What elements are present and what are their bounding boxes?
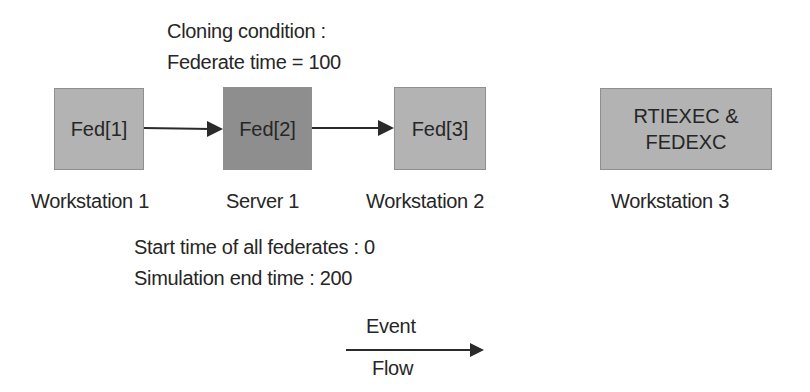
- edge-fed1-to-fed2-arrow-icon: [144, 121, 223, 137]
- arrow-layer: [0, 0, 810, 392]
- edge-fed2-to-fed3-arrow-icon: [312, 120, 394, 136]
- legend-event-flow-arrow-icon: [346, 343, 484, 357]
